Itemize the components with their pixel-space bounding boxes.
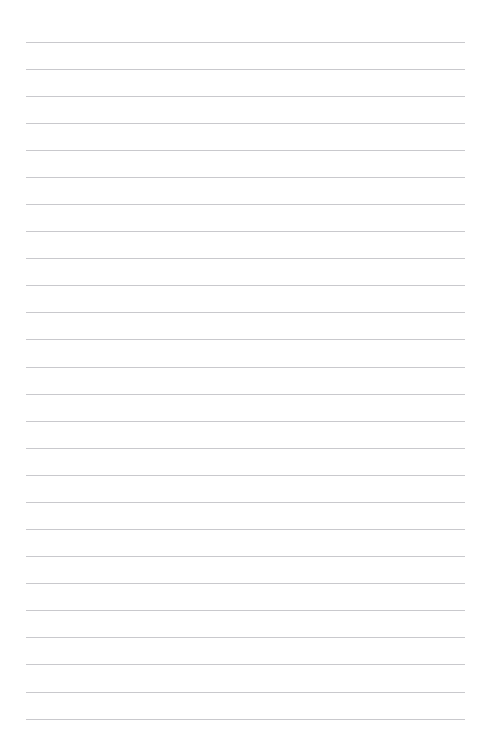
rule-line bbox=[26, 312, 465, 313]
rule-line bbox=[26, 637, 465, 638]
rule-line bbox=[26, 69, 465, 70]
rule-line bbox=[26, 123, 465, 124]
rule-line bbox=[26, 719, 465, 720]
rule-line bbox=[26, 150, 465, 151]
rule-line bbox=[26, 448, 465, 449]
rule-line bbox=[26, 394, 465, 395]
rule-line bbox=[26, 258, 465, 259]
rule-line bbox=[26, 692, 465, 693]
lined-paper-page bbox=[0, 0, 489, 750]
rule-line bbox=[26, 96, 465, 97]
rule-line bbox=[26, 502, 465, 503]
rule-line bbox=[26, 367, 465, 368]
rule-line bbox=[26, 556, 465, 557]
rule-line bbox=[26, 339, 465, 340]
rule-line bbox=[26, 529, 465, 530]
rule-line bbox=[26, 664, 465, 665]
rule-line bbox=[26, 177, 465, 178]
rule-line bbox=[26, 610, 465, 611]
rule-line bbox=[26, 204, 465, 205]
rule-line bbox=[26, 475, 465, 476]
rule-line bbox=[26, 231, 465, 232]
rule-line bbox=[26, 583, 465, 584]
rule-line bbox=[26, 285, 465, 286]
rule-line bbox=[26, 42, 465, 43]
rule-line bbox=[26, 421, 465, 422]
ruled-lines-group bbox=[0, 0, 489, 750]
